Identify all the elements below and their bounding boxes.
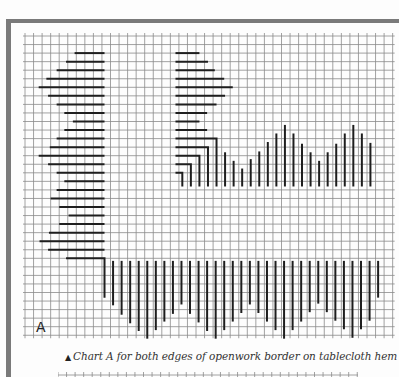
stitch-corner (66, 258, 104, 297)
caption-text: Chart A for both edges of openwork borde… (73, 350, 397, 362)
book-page: A ▲Chart A for both edges of openwork bo… (0, 0, 399, 377)
stitch-chart (0, 0, 399, 377)
chart-letter-label: A (36, 319, 46, 335)
figure-caption: ▲Chart A for both edges of openwork bord… (65, 350, 365, 362)
bottom-grid-edge (58, 372, 358, 377)
triangle-marker-icon: ▲ (65, 353, 71, 362)
